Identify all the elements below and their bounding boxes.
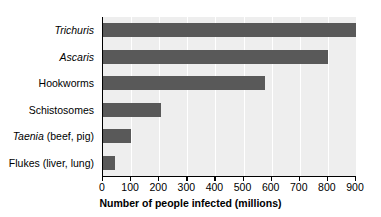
bar-row	[103, 44, 356, 71]
y-axis-label-roman: Hookworms	[39, 77, 94, 89]
x-tick-label: 100	[121, 181, 139, 193]
bar-row	[103, 123, 356, 150]
y-axis-label: Hookworms	[0, 70, 98, 97]
bar	[103, 156, 115, 170]
x-axis-title: Number of people infected (millions)	[0, 197, 381, 209]
y-axis-label-italic: Trichuris	[55, 24, 94, 36]
bar	[103, 76, 265, 90]
bar	[103, 23, 356, 37]
x-tick-label: 0	[99, 181, 105, 193]
bar-series	[103, 17, 356, 176]
bar-row	[103, 150, 356, 177]
y-axis-label-roman: Flukes (liver, lung)	[9, 157, 94, 169]
y-axis-label: Taenia (beef, pig)	[0, 123, 98, 150]
x-tick-label: 600	[262, 181, 280, 193]
x-axis-tick-labels: 0100200300400500600700800900	[0, 181, 381, 195]
x-tick-label: 700	[290, 181, 308, 193]
plot-area	[102, 17, 356, 177]
y-axis-label: Ascaris	[0, 44, 98, 71]
bar	[103, 103, 161, 117]
gridline	[356, 17, 357, 176]
x-tick-label: 500	[234, 181, 252, 193]
bar-row	[103, 97, 356, 124]
x-tick-label: 300	[178, 181, 196, 193]
bar-chart-figure: Trichuris Ascaris Hookworms Schistosomes…	[0, 0, 381, 217]
y-axis-label-roman: (beef, pig)	[44, 130, 94, 142]
y-axis-label-roman: Schistosomes	[29, 104, 94, 116]
x-tick-label: 400	[206, 181, 224, 193]
x-tick-label: 900	[346, 181, 364, 193]
y-axis-label: Flukes (liver, lung)	[0, 150, 98, 177]
y-axis-category-labels: Trichuris Ascaris Hookworms Schistosomes…	[0, 17, 98, 176]
bar	[103, 129, 131, 143]
bar	[103, 50, 328, 64]
y-axis-label: Trichuris	[0, 17, 98, 44]
y-axis-label-italic: Ascaris	[60, 51, 94, 63]
x-tick-label: 800	[318, 181, 336, 193]
y-axis-label-italic: Taenia	[13, 130, 44, 142]
bar-row	[103, 70, 356, 97]
bar-row	[103, 17, 356, 44]
y-axis-label: Schistosomes	[0, 97, 98, 124]
x-tick-label: 200	[149, 181, 167, 193]
